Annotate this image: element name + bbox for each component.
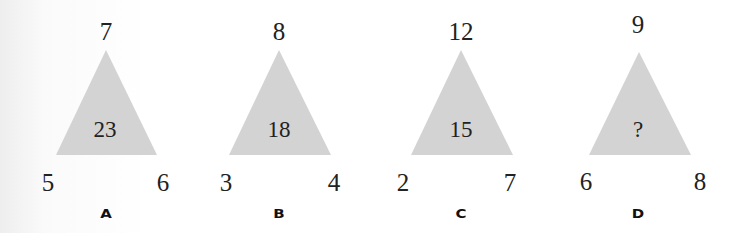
- right-number: 6: [157, 170, 170, 195]
- right-number: 4: [328, 170, 341, 195]
- puzzle-label: A: [100, 206, 112, 221]
- center-number: 18: [268, 118, 291, 141]
- left-number: 5: [42, 170, 55, 195]
- puzzle-c: 12 2 7 15 C: [370, 0, 550, 233]
- right-number: 8: [694, 169, 707, 194]
- puzzle-b: 8 3 4 18 B: [188, 0, 368, 233]
- right-number: 7: [504, 170, 517, 195]
- left-number: 3: [220, 170, 233, 195]
- left-number: 2: [397, 170, 410, 195]
- center-number: 23: [94, 118, 117, 141]
- puzzle-d: 9 6 8 ? D: [550, 0, 730, 233]
- center-number: 15: [450, 118, 473, 141]
- top-number: 8: [273, 19, 286, 44]
- top-number: 12: [449, 19, 474, 44]
- puzzle-a: 7 5 6 23 A: [16, 0, 196, 233]
- puzzle-label: D: [632, 206, 644, 221]
- puzzle-label: C: [456, 206, 467, 221]
- top-number: 9: [632, 12, 645, 37]
- top-number: 7: [100, 19, 113, 44]
- puzzle-label: B: [273, 206, 284, 221]
- left-number: 6: [580, 169, 593, 194]
- center-number: ?: [633, 118, 643, 141]
